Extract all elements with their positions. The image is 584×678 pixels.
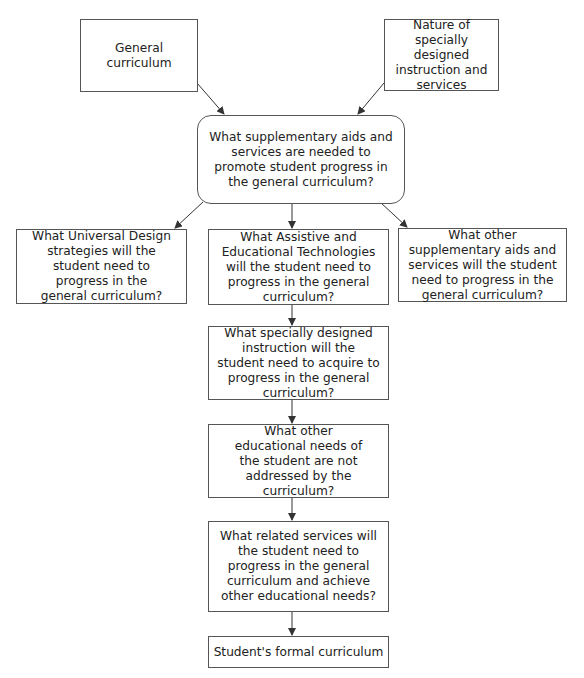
node-label: What Universal Design strategies will th… bbox=[31, 229, 172, 304]
arrow-nature-to-question bbox=[358, 83, 384, 114]
node-universal-design: What Universal Design strategies will th… bbox=[16, 229, 187, 304]
node-nature-sdi: Nature of specially designed instruction… bbox=[384, 19, 499, 91]
node-general-curriculum: General curriculum bbox=[80, 19, 198, 92]
node-label: What other supplementary aids and servic… bbox=[405, 228, 560, 303]
node-label: General curriculum bbox=[106, 41, 171, 71]
node-other-supplementary: What other supplementary aids and servic… bbox=[398, 228, 567, 302]
arrow-question-to-universal bbox=[175, 202, 203, 228]
arrow-question-to-other-supplementary bbox=[380, 202, 407, 227]
arrow-general-to-question bbox=[197, 83, 224, 114]
node-specially-designed: What specially designed instruction will… bbox=[208, 326, 389, 400]
node-label: Nature of specially designed instruction… bbox=[389, 18, 494, 93]
node-other-needs: What other educational needs of the stud… bbox=[208, 424, 389, 498]
node-assistive-tech: What Assistive and Educational Technolog… bbox=[208, 229, 389, 305]
node-label: What related services will the student n… bbox=[219, 529, 378, 604]
node-supplementary-question: What supplementary aids and services are… bbox=[197, 115, 405, 204]
node-label: What Assistive and Educational Technolog… bbox=[213, 230, 384, 305]
node-label: What supplementary aids and services are… bbox=[208, 130, 394, 190]
node-label: What other educational needs of the stud… bbox=[231, 424, 366, 499]
node-label: Student's formal curriculum bbox=[214, 645, 384, 660]
node-related-services: What related services will the student n… bbox=[208, 521, 389, 612]
node-formal-curriculum: Student's formal curriculum bbox=[208, 636, 389, 668]
node-label: What specially designed instruction will… bbox=[217, 326, 380, 401]
